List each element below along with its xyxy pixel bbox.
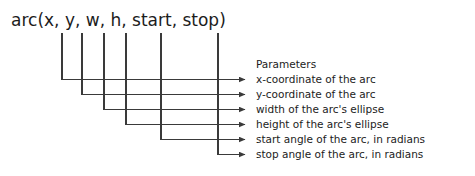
parameters-list: Parameters x-coordinate of the arc y-coo… (256, 57, 425, 162)
leader-line-stop (218, 33, 245, 155)
leader-line-h (126, 33, 245, 125)
parameter-description-start: start angle of the arc, in radians (256, 132, 425, 147)
arc-function-parameter-diagram: arc(x, y, w, h, start, stop) Parameters … (0, 0, 475, 176)
parameters-heading: Parameters (256, 57, 425, 72)
parameter-description-y: y-coordinate of the arc (256, 87, 425, 102)
parameter-description-h: height of the arc's ellipse (256, 117, 425, 132)
leader-line-w (104, 33, 245, 110)
leader-line-y (82, 33, 245, 95)
leader-line-start (161, 33, 245, 140)
parameter-description-x: x-coordinate of the arc (256, 72, 425, 87)
parameter-description-stop: stop angle of the arc, in radians (256, 147, 425, 162)
parameter-description-w: width of the arc's ellipse (256, 102, 425, 117)
